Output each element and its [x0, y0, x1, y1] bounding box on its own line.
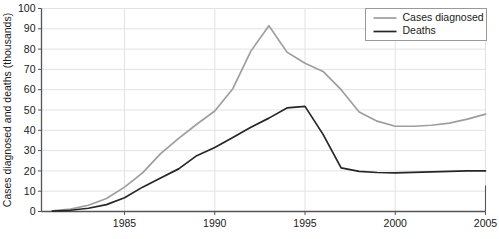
series-line-deaths [52, 106, 485, 211]
y-tick-label: 30 [24, 144, 36, 156]
y-tick-label: 20 [24, 165, 36, 177]
y-tick-label: 10 [24, 185, 36, 197]
y-tick-label: 90 [24, 22, 36, 34]
x-tick-label: 1990 [203, 217, 227, 229]
legend-label-deaths: Deaths [403, 24, 436, 36]
y-axis-title-label: Cases diagnosed and deaths (thousands) [1, 13, 13, 207]
y-tick-label: 100 [18, 2, 36, 14]
y-tick-label: 0 [30, 205, 36, 217]
legend-label-cases-diagnosed: Cases diagnosed [403, 11, 484, 23]
data-series [52, 26, 485, 211]
y-axis-title: Cases diagnosed and deaths (thousands) [1, 13, 13, 207]
y-tick-label: 70 [24, 63, 36, 75]
x-axis-ticks: 19851990199520002005 [113, 212, 497, 229]
y-tick-label: 40 [24, 124, 36, 136]
y-tick-label: 60 [24, 83, 36, 95]
chart-legend: Cases diagnosedDeaths [366, 9, 487, 41]
x-tick-label: 1985 [113, 217, 137, 229]
x-tick-label: 1995 [293, 217, 317, 229]
y-axis-ticks: 0102030405060708090100 [18, 2, 42, 217]
x-tick-label: 2005 [474, 217, 498, 229]
line-chart: 0102030405060708090100 19851990199520002… [0, 0, 499, 239]
y-tick-label: 50 [24, 104, 36, 116]
chart-container: 0102030405060708090100 19851990199520002… [0, 0, 499, 239]
x-tick-label: 2000 [384, 217, 408, 229]
y-tick-label: 80 [24, 43, 36, 55]
